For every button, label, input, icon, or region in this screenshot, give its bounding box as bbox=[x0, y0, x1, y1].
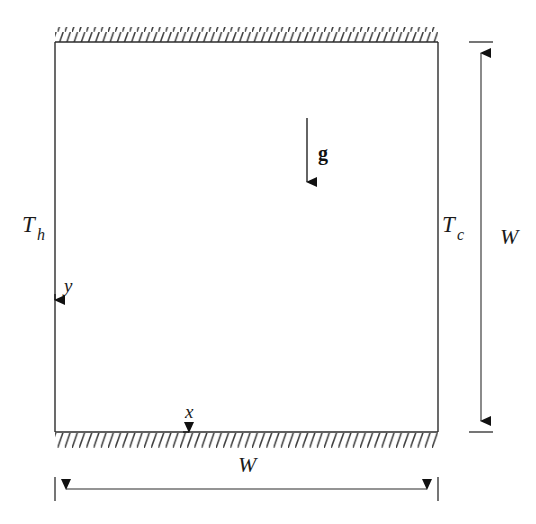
cavity-diagram-figure: T h T c g y x W W bbox=[0, 0, 536, 524]
cold-wall-temperature-label-sub: c bbox=[457, 226, 464, 243]
right-width-label: W bbox=[500, 224, 520, 249]
y-axis-label: y bbox=[62, 275, 73, 296]
width-dimension-vertical bbox=[469, 42, 493, 432]
bottom-adiabatic-wall bbox=[55, 432, 438, 448]
cold-wall-temperature-label-base: T bbox=[442, 212, 457, 237]
diagram-canvas: T h T c g y x W W bbox=[0, 0, 536, 524]
top-adiabatic-wall bbox=[55, 27, 438, 42]
x-axis-label: x bbox=[184, 401, 194, 422]
hot-wall-temperature-label-sub: h bbox=[37, 226, 45, 243]
width-dimension-horizontal bbox=[55, 477, 438, 501]
gravity-vector-label: g bbox=[318, 142, 328, 165]
bottom-width-label: W bbox=[238, 452, 258, 477]
square-cavity bbox=[55, 42, 438, 432]
bottom-wall-hatch bbox=[55, 433, 438, 448]
top-wall-hatch bbox=[55, 27, 438, 42]
hot-wall-temperature-label-base: T bbox=[22, 212, 37, 237]
